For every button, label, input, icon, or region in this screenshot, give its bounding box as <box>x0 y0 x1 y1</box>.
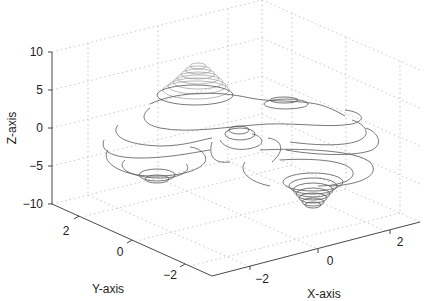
contour-lines <box>103 63 378 208</box>
z-tick-0: 0 <box>36 121 43 135</box>
x-tick-0: 0 <box>327 254 334 268</box>
z-tick-5: 5 <box>36 83 43 97</box>
axes <box>48 52 420 276</box>
z-tick-m5: −5 <box>29 159 43 173</box>
y-tick-2: 2 <box>63 224 70 238</box>
y-tick-0: 0 <box>117 245 124 259</box>
x-axis-label: X-axis <box>307 287 340 301</box>
contour3-plot: 10 5 0 −5 −10 2 0 −2 −2 0 2 Y-axis X-axi… <box>0 0 425 301</box>
z-tick-m10: −10 <box>23 197 44 211</box>
z-tick-10: 10 <box>30 45 44 59</box>
z-axis-label: Z-axis <box>5 112 19 145</box>
y-tick-m2: −2 <box>163 268 177 282</box>
grid-lines <box>52 0 420 266</box>
y-axis-label: Y-axis <box>92 282 124 296</box>
x-tick-2: 2 <box>397 235 404 249</box>
z-tick-labels: 10 5 0 −5 −10 <box>23 45 44 211</box>
x-tick-m2: −2 <box>255 272 269 286</box>
x-tick-labels: −2 0 2 <box>255 235 404 286</box>
